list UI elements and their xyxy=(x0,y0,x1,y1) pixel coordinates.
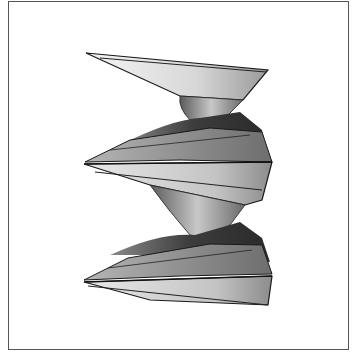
helicoid-surface-render xyxy=(0,0,354,357)
upper-twist xyxy=(84,53,272,205)
